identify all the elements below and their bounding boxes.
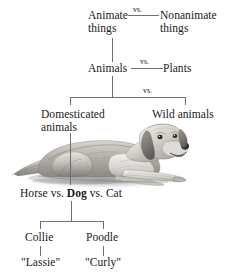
connector-level5-horizontal bbox=[40, 221, 103, 222]
connector-level3-horizontal bbox=[70, 97, 186, 98]
connector-level2-horizontal bbox=[131, 68, 163, 69]
node-plants: Plants bbox=[163, 62, 191, 75]
node-domesticated-animals-line2: animals bbox=[41, 121, 77, 133]
connector-level5-left-drop bbox=[40, 221, 41, 229]
node-domesticated-animals: Domesticated animals bbox=[41, 108, 119, 133]
node-horse-dog-cat: Horse vs. Dog vs. Cat bbox=[20, 187, 122, 200]
node-animate-things-line1: Animate bbox=[88, 9, 128, 21]
node-animate-things: Animate things bbox=[88, 9, 138, 34]
node-wild-animals: Wild animals bbox=[152, 108, 214, 121]
contrast-label-level1: vs. bbox=[133, 5, 142, 14]
contrast-label-level2: vs. bbox=[140, 57, 149, 66]
contrast-label-level3: vs. bbox=[143, 86, 152, 95]
node-horse-dog-cat-highlight: Dog bbox=[67, 187, 87, 199]
node-horse-dog-cat-prefix: Horse vs. bbox=[20, 187, 67, 199]
connector-animate-to-animals bbox=[112, 38, 113, 62]
node-lassie: "Lassie" bbox=[21, 256, 60, 269]
connector-domesticated-to-level4 bbox=[70, 133, 71, 185]
node-nonanimate-things-line1: Nonanimate bbox=[160, 9, 217, 21]
connector-level5-right-drop bbox=[103, 221, 104, 229]
node-nonanimate-things: Nonanimate things bbox=[160, 9, 228, 34]
connector-level3-left-drop bbox=[70, 97, 71, 105]
node-horse-dog-cat-suffix: vs. Cat bbox=[87, 187, 122, 199]
node-domesticated-animals-line1: Domesticated bbox=[41, 108, 105, 120]
node-animate-things-line2: things bbox=[88, 22, 116, 34]
connector-level3-right-drop bbox=[185, 97, 186, 105]
taxonomy-diagram: Animate things vs. Nonanimate things Ani… bbox=[0, 0, 229, 273]
node-animals: Animals bbox=[88, 62, 127, 75]
node-curly: "Curly" bbox=[85, 256, 121, 269]
node-collie: Collie bbox=[25, 231, 53, 244]
node-nonanimate-things-line2: things bbox=[160, 22, 188, 34]
connector-level1-horizontal bbox=[128, 15, 159, 16]
connector-animals-to-level3 bbox=[112, 76, 113, 97]
connector-poodle-to-curly bbox=[103, 246, 104, 256]
connector-level4-to-level5 bbox=[71, 201, 72, 221]
node-poodle: Poodle bbox=[86, 231, 118, 244]
connector-collie-to-lassie bbox=[40, 246, 41, 256]
